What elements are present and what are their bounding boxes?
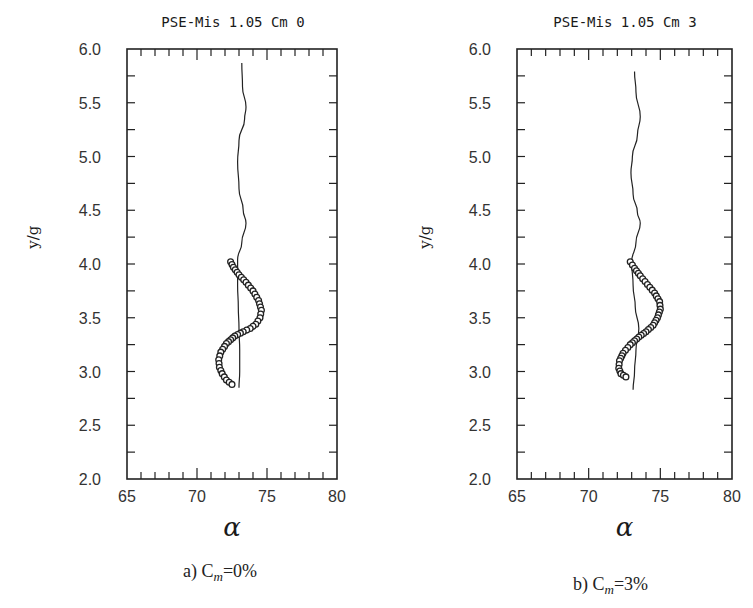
x-tick-label: 75 <box>651 488 669 505</box>
y-tick-label: 4.0 <box>469 256 491 273</box>
data-point <box>229 382 235 388</box>
y-tick-label: 3.5 <box>469 310 491 327</box>
y-tick-label: 2.0 <box>469 471 491 488</box>
y-axis-label: y/g <box>24 225 42 250</box>
x-axis-label: α <box>223 512 241 542</box>
panel-caption: b) Cm=3% <box>573 574 648 597</box>
panel-caption: a) Cm=0% <box>183 561 257 584</box>
x-tick-label: 65 <box>118 488 136 505</box>
x-tick-label: 70 <box>580 488 598 505</box>
chart-title: PSE-Mis 1.05 Cm 0 <box>161 14 304 30</box>
y-tick-label: 3.0 <box>79 364 101 381</box>
x-tick-label: 65 <box>508 488 526 505</box>
plot-frame <box>517 49 732 479</box>
y-tick-label: 3.0 <box>469 364 491 381</box>
x-tick-label: 80 <box>328 488 346 505</box>
x-tick-label: 75 <box>258 488 276 505</box>
figure: 657075802.02.53.03.54.04.55.05.56.0PSE-M… <box>0 0 753 608</box>
data-point <box>623 374 629 380</box>
y-tick-label: 6.0 <box>79 41 101 58</box>
y-tick-label: 3.5 <box>79 310 101 327</box>
y-tick-label: 5.5 <box>469 95 491 112</box>
chart-title: PSE-Mis 1.05 Cm 3 <box>553 14 696 30</box>
x-tick-label: 70 <box>188 488 206 505</box>
y-tick-label: 5.5 <box>79 95 101 112</box>
chart-panel-b: 657075802.02.53.03.54.04.55.05.56.0PSE-M… <box>416 14 741 597</box>
y-tick-label: 2.5 <box>79 417 101 434</box>
y-tick-label: 5.0 <box>79 149 101 166</box>
circle-series <box>616 259 663 380</box>
y-tick-label: 2.5 <box>469 417 491 434</box>
y-tick-label: 4.5 <box>79 202 101 219</box>
x-axis-label: α <box>616 512 634 542</box>
figure-canvas: 657075802.02.53.03.54.04.55.05.56.0PSE-M… <box>0 0 753 608</box>
chart-panel-a: 657075802.02.53.03.54.04.55.05.56.0PSE-M… <box>24 14 346 584</box>
y-tick-label: 4.5 <box>469 202 491 219</box>
y-tick-label: 2.0 <box>79 471 101 488</box>
x-tick-label: 80 <box>723 488 741 505</box>
y-tick-label: 4.0 <box>79 256 101 273</box>
line-series <box>238 63 246 388</box>
y-tick-label: 5.0 <box>469 149 491 166</box>
y-axis-label: y/g <box>416 225 434 250</box>
y-tick-label: 6.0 <box>469 41 491 58</box>
